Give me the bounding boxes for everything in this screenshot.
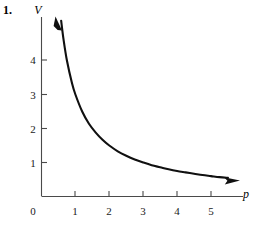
x-tick-label-1: 1 xyxy=(72,205,78,217)
y-tick-label-1: 1 xyxy=(30,157,36,169)
hyperbola-curve xyxy=(61,21,228,178)
y-tick-label-2: 2 xyxy=(30,123,36,135)
x-tick-label-4: 4 xyxy=(174,205,180,217)
x-tick-label-2: 2 xyxy=(106,205,112,217)
y-tick-label-3: 3 xyxy=(30,89,36,101)
figure-container: 1. 4 3 2 1 0 1 2 3 4 5 V p xyxy=(0,0,257,231)
arrow-right-icon xyxy=(224,177,240,184)
x-tick-label-5: 5 xyxy=(208,205,214,217)
origin-label: 0 xyxy=(30,205,36,217)
plot-area: 4 3 2 1 0 1 2 3 4 5 V p xyxy=(0,0,257,231)
x-tick-label-3: 3 xyxy=(140,205,146,217)
y-tick-label-4: 4 xyxy=(30,54,36,66)
x-axis-label: p xyxy=(242,187,249,201)
y-axis-label: V xyxy=(34,3,43,17)
